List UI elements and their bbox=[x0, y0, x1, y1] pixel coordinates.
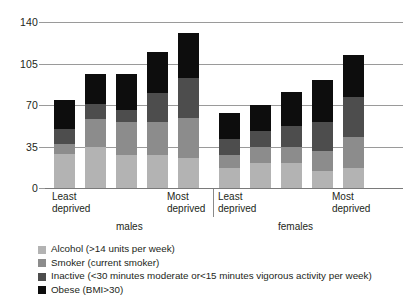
legend-swatch-alcohol-icon bbox=[38, 246, 46, 254]
y-tick-0: 0 bbox=[0, 183, 38, 194]
group-label-males: males bbox=[116, 221, 143, 232]
segment-alcohol bbox=[343, 168, 364, 188]
segment-obese bbox=[147, 52, 168, 94]
legend-label-alcohol: Alcohol (>14 units per week) bbox=[51, 243, 175, 256]
segment-obese bbox=[343, 55, 364, 97]
segment-smoker bbox=[312, 151, 333, 171]
segment-obese bbox=[116, 74, 137, 110]
xlabel-line-1: Least bbox=[52, 191, 76, 202]
legend-item-obese: Obese (BMI>30) bbox=[38, 284, 372, 298]
xlabel-males-least: Least deprived bbox=[52, 191, 90, 214]
segment-inactive bbox=[147, 93, 168, 122]
legend-label-smoker: Smoker (current smoker) bbox=[51, 257, 159, 270]
segment-obese bbox=[281, 92, 302, 126]
segment-alcohol bbox=[281, 163, 302, 188]
bar-males-5 bbox=[178, 33, 199, 188]
segment-smoker bbox=[343, 137, 364, 168]
segment-alcohol bbox=[147, 155, 168, 188]
segment-smoker bbox=[54, 144, 75, 154]
segment-smoker bbox=[281, 147, 302, 164]
segment-smoker bbox=[147, 122, 168, 155]
xlabel-line-1: Most bbox=[167, 191, 189, 202]
legend-label-obese: Obese (BMI>30) bbox=[51, 284, 123, 297]
legend-swatch-obese-icon bbox=[38, 286, 46, 294]
x-axis-baseline bbox=[45, 188, 403, 189]
xlabel-line-1: Least bbox=[218, 191, 242, 202]
segment-inactive bbox=[250, 131, 271, 146]
bar-females-3 bbox=[281, 92, 302, 188]
segment-inactive bbox=[54, 129, 75, 144]
segment-smoker bbox=[250, 147, 271, 164]
segment-smoker bbox=[178, 118, 199, 158]
segment-alcohol bbox=[54, 154, 75, 188]
segment-alcohol bbox=[116, 155, 137, 188]
xlabel-line-1: Most bbox=[332, 191, 354, 202]
xlabel-females-least: Least deprived bbox=[218, 191, 256, 214]
legend-item-inactive: Inactive (<30 minutes moderate or<15 min… bbox=[38, 270, 372, 284]
chart-legend: Alcohol (>14 units per week) Smoker (cur… bbox=[38, 243, 372, 297]
legend-swatch-smoker-icon bbox=[38, 259, 46, 267]
segment-alcohol bbox=[250, 163, 271, 188]
segment-inactive bbox=[178, 78, 199, 118]
y-tick-35: 35 bbox=[0, 142, 38, 153]
bar-males-3 bbox=[116, 74, 137, 188]
segment-inactive bbox=[85, 104, 106, 119]
bar-females-1 bbox=[219, 113, 240, 188]
segment-obese bbox=[250, 105, 271, 131]
segment-smoker bbox=[85, 119, 106, 146]
xlabel-line-2: deprived bbox=[167, 203, 205, 214]
bar-males-1 bbox=[54, 100, 75, 188]
group-label-females: females bbox=[278, 221, 313, 232]
segment-alcohol bbox=[178, 158, 199, 188]
bar-males-4 bbox=[147, 52, 168, 188]
legend-item-alcohol: Alcohol (>14 units per week) bbox=[38, 243, 372, 257]
segment-inactive bbox=[116, 110, 137, 122]
bar-females-5 bbox=[343, 55, 364, 188]
group-divider bbox=[213, 189, 214, 217]
segment-alcohol bbox=[219, 168, 240, 188]
bar-males-2 bbox=[85, 74, 106, 188]
xlabel-males-most: Most deprived bbox=[167, 191, 205, 214]
segment-inactive bbox=[312, 122, 333, 152]
segment-obese bbox=[85, 74, 106, 104]
legend-label-inactive: Inactive (<30 minutes moderate or<15 min… bbox=[51, 270, 372, 283]
xlabel-line-2: deprived bbox=[332, 203, 370, 214]
xlabel-line-2: deprived bbox=[218, 203, 256, 214]
bar-females-4 bbox=[312, 80, 333, 188]
segment-smoker bbox=[116, 122, 137, 155]
xlabel-line-2: deprived bbox=[52, 203, 90, 214]
segment-inactive bbox=[281, 126, 302, 146]
y-tick-140: 140 bbox=[0, 17, 38, 28]
segment-obese bbox=[54, 100, 75, 129]
segment-inactive bbox=[343, 97, 364, 137]
bars-layer bbox=[45, 22, 403, 188]
segment-obese bbox=[178, 33, 199, 78]
segment-alcohol bbox=[312, 171, 333, 188]
bar-females-2 bbox=[250, 105, 271, 188]
y-tick-70: 70 bbox=[0, 100, 38, 111]
legend-item-smoker: Smoker (current smoker) bbox=[38, 257, 372, 271]
segment-obese bbox=[312, 80, 333, 122]
y-tick-105: 105 bbox=[0, 59, 38, 70]
segment-alcohol bbox=[85, 147, 106, 189]
segment-smoker bbox=[219, 155, 240, 168]
segment-inactive bbox=[219, 139, 240, 154]
stacked-bar-chart: 140 105 70 35 0 bbox=[0, 0, 410, 308]
legend-swatch-inactive-icon bbox=[38, 273, 46, 281]
xlabel-females-most: Most deprived bbox=[332, 191, 370, 214]
segment-obese bbox=[219, 113, 240, 139]
